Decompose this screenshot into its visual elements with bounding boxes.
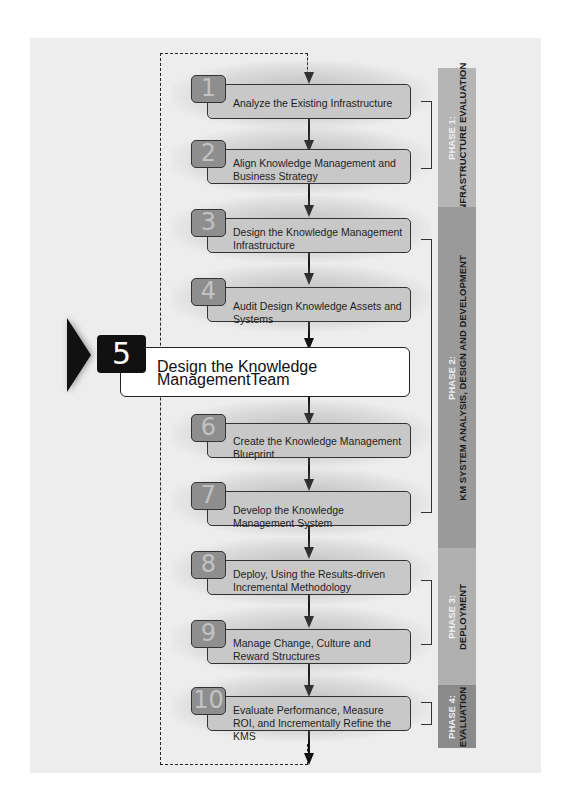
step-number: 6 — [191, 414, 226, 442]
step-label: Manage Change, Culture and Reward Struct… — [233, 637, 403, 663]
phase-label: PHASE 3: — [446, 584, 457, 650]
phase-name: KM SYSTEM ANALYSIS, DESIGN AND DEVELOPME… — [457, 255, 468, 500]
current-step-pointer-icon — [67, 318, 91, 392]
step-9: 9 Manage Change, Culture and Reward Stru… — [191, 620, 411, 664]
phase-3-bar: PHASE 3: DEPLOYMENT — [438, 548, 476, 685]
step-label: Audit Design Knowledge Assets and System… — [233, 300, 403, 326]
step-number: 9 — [191, 620, 226, 648]
arrow-down-icon — [304, 753, 314, 765]
phase-4-bar: PHASE 4: EVALUATION — [438, 685, 476, 748]
step-2: 2 Align Knowledge Management and Busines… — [191, 140, 411, 184]
phase-3-bracket — [421, 580, 432, 645]
phase-2-bar: PHASE 2: KM SYSTEM ANALYSIS, DESIGN AND … — [438, 207, 476, 548]
step-7: 7 Develop the Knowledge Management Syste… — [191, 482, 411, 526]
step-4: 4 Audit Design Knowledge Assets and Syst… — [191, 278, 411, 322]
step-5-active: 5 Design the Knowledge ManagementTeam — [97, 335, 410, 397]
phase-2-bracket — [421, 239, 432, 513]
step-10: 10 Evaluate Performance, Measure ROI, an… — [191, 687, 411, 731]
phase-4-bracket — [421, 702, 432, 725]
step-number: 2 — [191, 140, 226, 168]
step-3: 3 Design the Knowledge Management Infras… — [191, 209, 411, 253]
step-label: Create the Knowledge Management Blueprin… — [233, 435, 403, 461]
step-number: 4 — [191, 278, 226, 306]
phase-1-bracket — [421, 101, 432, 169]
step-label: Analyze the Existing Infrastructure — [233, 97, 403, 110]
step-number: 8 — [191, 551, 226, 579]
step-6: 6 Create the Knowledge Management Bluepr… — [191, 414, 411, 458]
step-1: 1 Analyze the Existing Infrastructure — [191, 75, 411, 119]
step-8: 8 Deploy, Using the Results-driven Incre… — [191, 551, 411, 595]
phase-label: PHASE 1: — [446, 62, 457, 213]
step-label: Deploy, Using the Results-driven Increme… — [233, 568, 403, 594]
step-label: Align Knowledge Management and Business … — [233, 157, 403, 183]
step-number: 10 — [191, 687, 226, 715]
step-label: Evaluate Performance, Measure ROI, and I… — [233, 704, 403, 743]
phase-name: EVALUATION — [457, 686, 468, 746]
step-number: 1 — [191, 75, 226, 103]
step-label: Develop the Knowledge Management System — [233, 504, 403, 530]
step-number: 7 — [191, 482, 226, 510]
phase-name: DEPLOYMENT — [457, 584, 468, 650]
step-label: Design the Knowledge Management Infrastr… — [233, 226, 403, 252]
phase-label: PHASE 2: — [446, 255, 457, 500]
phase-name: INFRASTRUCTURE EVALUATION — [457, 62, 468, 213]
phase-label: PHASE 4: — [446, 686, 457, 746]
step-number: 3 — [191, 209, 226, 237]
step-number: 5 — [97, 335, 146, 373]
phase-1-bar: PHASE 1: INFRASTRUCTURE EVALUATION — [438, 68, 476, 207]
step-label: Design the Knowledge ManagementTeam — [157, 360, 402, 386]
